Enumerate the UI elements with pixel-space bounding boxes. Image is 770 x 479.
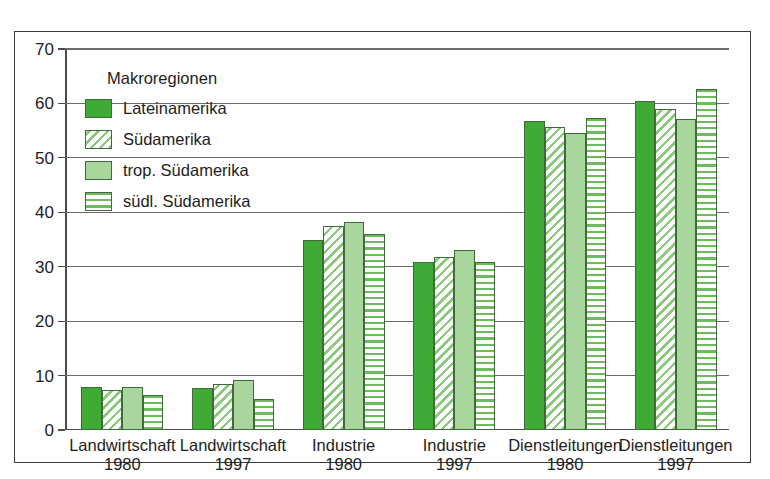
gridline (65, 321, 729, 322)
bar (102, 390, 123, 430)
y-axis-tick-label: 70 (35, 41, 54, 58)
x-axis-category-label: Dienstleitungen1980 (508, 436, 622, 475)
gridline (65, 375, 729, 376)
legend-label: trop. Südamerika (123, 162, 249, 179)
category-name: Dienstleitungen (508, 436, 622, 454)
category-name: Industrie (423, 436, 486, 454)
bar (524, 121, 545, 430)
legend-entries: LateinamerikaSüdamerikatrop. Südamerikas… (85, 93, 310, 217)
x-axis-category-label: Industrie1997 (423, 436, 486, 475)
x-axis-line (65, 429, 729, 431)
bar (233, 380, 254, 430)
y-axis-tick-label: 60 (35, 95, 54, 112)
y-axis-tick (58, 48, 65, 49)
legend-swatch-diagonal-hatch (85, 130, 112, 149)
bar (122, 387, 143, 430)
legend-swatch-solid-light-green (85, 161, 112, 180)
bar (655, 109, 676, 430)
category-name: Dienstleitungen (619, 436, 733, 454)
category-name: Landwirtschaft (69, 436, 175, 454)
x-axis-category-label: Landwirtschaft1997 (180, 436, 286, 475)
legend-title: Makroregionen (107, 70, 310, 87)
category-year: 1980 (69, 455, 175, 474)
category-name: Industrie (312, 436, 375, 454)
x-axis-category-label: Dienstleitungen1997 (619, 436, 733, 475)
legend-swatch-solid-dark-green (85, 99, 112, 118)
bar (303, 240, 324, 430)
y-axis-tick (58, 103, 65, 104)
y-axis-tick-label: 0 (45, 422, 54, 439)
bar (545, 127, 566, 430)
bar (676, 119, 697, 430)
y-axis-tick-label: 50 (35, 149, 54, 166)
bar (254, 399, 275, 430)
y-axis-line (65, 49, 67, 430)
chart-figure: 010203040506070 Landwirtschaft1980Landwi… (14, 31, 751, 463)
bar (213, 384, 234, 430)
y-axis-tick (58, 429, 65, 430)
bar (635, 101, 656, 430)
legend-label: südl. Südamerika (123, 193, 250, 210)
bar (192, 388, 213, 430)
x-axis-category-label: Landwirtschaft1980 (69, 436, 175, 475)
legend-label: Südamerika (123, 131, 211, 148)
bar (454, 250, 475, 430)
category-year: 1980 (312, 455, 375, 474)
y-axis-tick-label: 10 (35, 367, 54, 384)
legend: Makroregionen LateinamerikaSüdamerikatro… (85, 70, 310, 217)
y-axis-tick (58, 266, 65, 267)
y-axis-tick-label: 20 (35, 313, 54, 330)
category-year: 1980 (508, 455, 622, 474)
category-year: 1997 (619, 455, 733, 474)
x-axis-category-label: Industrie1980 (312, 436, 375, 475)
bar (364, 234, 385, 430)
y-axis-tick (58, 375, 65, 376)
y-axis-tick (58, 157, 65, 158)
bar (344, 222, 365, 430)
category-year: 1997 (423, 455, 486, 474)
bar (696, 89, 717, 430)
category-name: Landwirtschaft (180, 436, 286, 454)
bar (413, 262, 434, 430)
bar (565, 133, 586, 430)
bar-group (303, 49, 385, 430)
legend-entry: trop. Südamerika (85, 155, 310, 186)
legend-swatch-horizontal-stripes (85, 192, 112, 211)
category-year: 1997 (180, 455, 286, 474)
y-axis-tick-label: 30 (35, 258, 54, 275)
bar-group (524, 49, 606, 430)
bar (143, 395, 164, 430)
bar (323, 226, 344, 430)
gridline (65, 48, 729, 49)
gridline (65, 266, 729, 267)
y-axis-tick (58, 321, 65, 322)
bar (81, 387, 102, 430)
bar (475, 262, 496, 430)
bar (586, 118, 607, 430)
legend-entry: Lateinamerika (85, 93, 310, 124)
legend-label: Lateinamerika (123, 100, 227, 117)
y-axis-tick (58, 212, 65, 213)
legend-entry: Südamerika (85, 124, 310, 155)
bar (434, 257, 455, 430)
legend-entry: südl. Südamerika (85, 186, 310, 217)
bar-group (413, 49, 495, 430)
y-axis-tick-label: 40 (35, 204, 54, 221)
bar-group (635, 49, 717, 430)
